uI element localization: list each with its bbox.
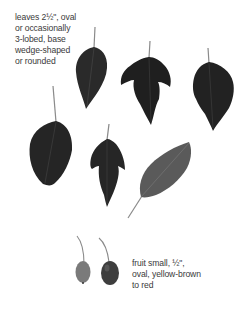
oval-leaf-top-left: [76, 27, 107, 109]
fruit-description: fruit small, ½", oval, yellow-brown to r…: [132, 258, 201, 291]
lobed-leaf-mid-center: [90, 124, 125, 207]
fruit-description-line-2: oval, yellow-brown: [132, 269, 201, 280]
lobed-leaf-top-right: [193, 48, 234, 131]
three-lobed-leaf-top-center: [121, 41, 171, 125]
oval-leaf-mid-right-gray: [128, 142, 191, 218]
fruit-description-line-1: fruit small, ½",: [132, 258, 201, 269]
oval-leaf-mid-left: [30, 86, 73, 185]
botanical-illustration: [0, 0, 246, 313]
fruit-description-line-3: to red: [132, 280, 201, 291]
fruit-left: [76, 236, 91, 284]
fruit-right: [99, 238, 119, 285]
